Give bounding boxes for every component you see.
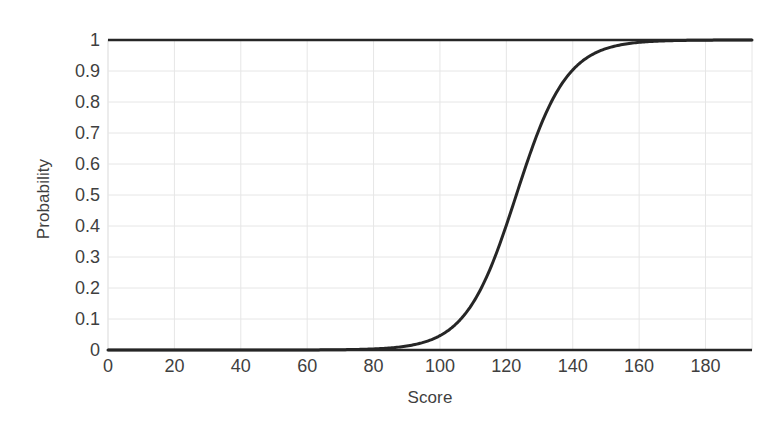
x-axis-title: Score: [108, 388, 752, 408]
y-axis-title: Probability: [24, 34, 64, 364]
x-axis-tick-labels: 020406080100120140160180: [0, 0, 781, 432]
probability-score-chart: 00.10.20.30.40.50.60.70.80.91 0204060801…: [0, 0, 781, 432]
x-tick-label: 180: [666, 356, 746, 377]
